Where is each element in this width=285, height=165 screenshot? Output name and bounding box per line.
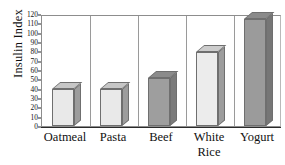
x-axis-label-yogurt: Yogurt — [227, 130, 285, 145]
bar-white-rice — [196, 45, 225, 126]
bar-side-face — [218, 46, 225, 126]
bar-pasta — [100, 82, 129, 126]
y-axis-tick-label: 80 — [31, 49, 38, 56]
x-axis-baseline — [41, 127, 281, 128]
bar-front-face — [196, 52, 218, 126]
bar-beef — [148, 71, 177, 126]
y-axis-tick-label: 100 — [27, 30, 38, 37]
y-axis-tick-label: 40 — [31, 86, 38, 93]
y-axis-tick-label: 50 — [31, 77, 38, 84]
category-separator-line — [234, 16, 235, 126]
plot-area — [41, 15, 281, 127]
y-axis-tick-label: 120 — [27, 11, 38, 18]
category-separator-line — [90, 16, 91, 126]
y-axis-tick-label: 70 — [31, 58, 38, 65]
insulin-index-bar-chart: Insulin Index 01020304050607080901001101… — [0, 0, 285, 165]
bar-front-face — [244, 19, 266, 126]
y-axis-tick-label: 90 — [31, 39, 38, 46]
bar-side-face — [266, 13, 273, 126]
category-separator-line — [186, 16, 187, 126]
bar-side-face — [122, 83, 129, 126]
y-axis-tick-labels: 0102030405060708090100110120 — [18, 15, 38, 127]
y-axis-tick-label: 10 — [31, 114, 38, 121]
category-separator-line — [138, 16, 139, 126]
bar-side-face — [74, 83, 81, 126]
bar-yogurt — [244, 12, 273, 126]
bar-front-face — [52, 89, 74, 126]
bar-oatmeal — [52, 82, 81, 126]
bar-side-face — [170, 73, 177, 126]
bar-front-face — [148, 78, 170, 126]
bar-front-face — [100, 89, 122, 126]
y-axis-tick-label: 30 — [31, 95, 38, 102]
y-axis-tick-label: 60 — [31, 67, 38, 74]
y-axis-tick-label: 110 — [27, 21, 38, 28]
y-axis-tick-label: 20 — [31, 105, 38, 112]
x-axis-category-labels: OatmealPastaBeefWhite RiceYogurt — [41, 130, 281, 165]
